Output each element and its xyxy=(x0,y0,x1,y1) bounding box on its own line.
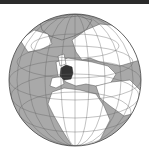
globe-map xyxy=(0,0,149,151)
